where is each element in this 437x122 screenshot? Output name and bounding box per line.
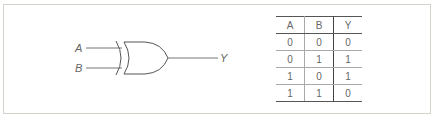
table-row: 1 1 0 [276, 85, 362, 102]
xor-gate-body-icon [124, 42, 168, 74]
cell-y: 0 [334, 34, 363, 51]
xor-input-arc-icon [116, 41, 121, 75]
truth-table-header: A B Y [276, 17, 362, 34]
table-row: 1 0 1 [276, 68, 362, 85]
cell-b: 0 [305, 34, 334, 51]
xor-gate-diagram: A B Y [0, 0, 437, 122]
cell-b: 0 [305, 68, 334, 85]
cell-b: 1 [305, 85, 334, 102]
cell-a: 0 [276, 51, 305, 68]
input-b-label: B [75, 62, 82, 74]
cell-a: 1 [276, 68, 305, 85]
cell-b: 1 [305, 51, 334, 68]
table-row: 0 1 1 [276, 51, 362, 68]
header-a: A [276, 17, 305, 34]
header-y: Y [334, 17, 363, 34]
header-b: B [305, 17, 334, 34]
output-y-label: Y [220, 52, 228, 64]
cell-a: 1 [276, 85, 305, 102]
cell-y: 1 [334, 68, 363, 85]
table-row: 0 0 0 [276, 34, 362, 51]
cell-y: 0 [334, 85, 363, 102]
cell-y: 1 [334, 51, 363, 68]
input-a-label: A [74, 42, 82, 54]
cell-a: 0 [276, 34, 305, 51]
truth-table: A B Y 0 0 0 0 1 1 1 0 1 1 1 0 [276, 16, 362, 102]
